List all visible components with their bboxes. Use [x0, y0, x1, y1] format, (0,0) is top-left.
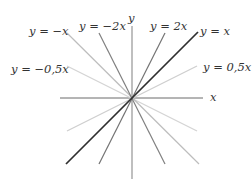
linear-functions-diagram: y = −x y = −2x y y = 2x y = x y = −0,5x …: [0, 0, 252, 180]
label-x-axis: x: [210, 90, 217, 104]
label-y-x: y = x: [199, 24, 230, 38]
label-y-0.5x: y = 0,5x: [202, 60, 252, 74]
label-y-2x: y = 2x: [149, 19, 188, 33]
label-y-neg-2x: y = −2x: [78, 19, 126, 33]
label-y-axis: y: [127, 11, 135, 25]
label-y-neg-0.5x: y = −0,5x: [10, 62, 69, 76]
label-y-neg-x: y = −x: [28, 24, 69, 38]
